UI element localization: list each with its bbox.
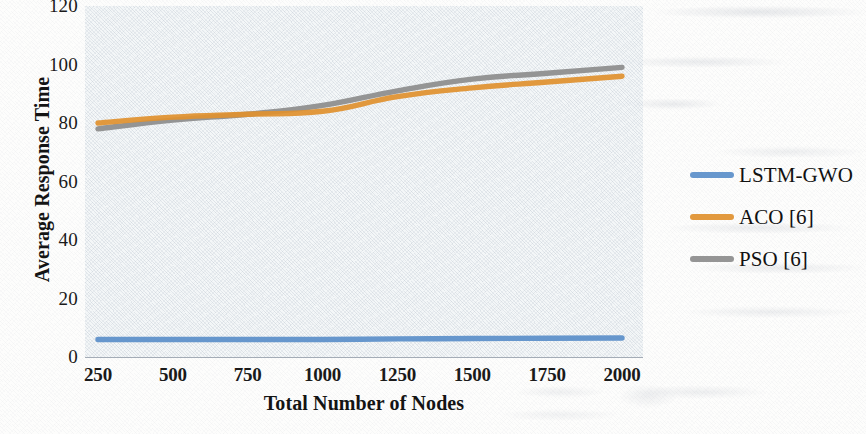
x-axis-tick-label: 1500 [454, 364, 491, 386]
legend-item-label: PSO [6] [739, 247, 808, 272]
y-axis-tick-label: 120 [26, 0, 78, 15]
legend-item-label: ACO [6] [739, 205, 814, 230]
figure-container: 020406080100120 250500750100012501500175… [0, 0, 866, 434]
legend-item-label: LSTM-GWO [739, 163, 853, 188]
legend-swatch-icon [690, 172, 734, 178]
x-axis-tick-label: 1250 [379, 364, 416, 386]
legend-item[interactable]: PSO [6] [690, 238, 866, 280]
legend: LSTM-GWOACO [6]PSO [6] [690, 154, 866, 280]
x-axis-tick-label: 250 [84, 364, 112, 386]
y-axis-title: Average Response Time [31, 30, 54, 330]
x-axis-tick-labels: 25050075010001250150017502000 [85, 364, 643, 390]
x-axis-tick-label: 1000 [304, 364, 341, 386]
plot-area [85, 6, 643, 358]
y-axis-tick-label: 0 [26, 347, 78, 366]
legend-swatch-icon [690, 214, 734, 220]
legend-swatch-icon [690, 256, 734, 262]
x-axis-tick-label: 750 [234, 364, 262, 386]
x-axis-title: Total Number of Nodes [85, 392, 643, 415]
legend-item[interactable]: LSTM-GWO [690, 154, 866, 196]
x-axis-line [85, 357, 643, 358]
x-axis-tick-label: 500 [159, 364, 187, 386]
x-axis-tick-label: 1750 [529, 364, 566, 386]
legend-item[interactable]: ACO [6] [690, 196, 866, 238]
x-axis-tick-label: 2000 [603, 364, 640, 386]
